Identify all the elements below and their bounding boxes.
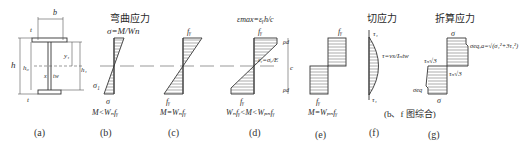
c-bottom-label: fᵧ	[166, 97, 170, 106]
d-condition: Wₙfᵧ<M<Wₚₙfᵧ	[226, 108, 275, 117]
t-bottom-label: t	[27, 96, 30, 104]
d-dim-top: ρd	[282, 39, 290, 45]
bottom-flange	[38, 90, 61, 94]
shear-formula: τ=vs/Iₙtw	[382, 52, 409, 60]
t-top-label: t	[30, 26, 33, 34]
caption-c: (c)	[168, 127, 179, 139]
i-section-figure: b t h h₀ t y₁ h₁ x tw (a)	[11, 8, 87, 139]
shear-bottom-label: τ₁	[372, 96, 377, 104]
stress-distribution-diagram: b t h h₀ t y₁ h₁ x tw (a) 弯曲应力 σ=M/Wn σ₁	[0, 0, 524, 151]
eq-formula: σeq,a=√(σ₁²+3τ₁²)	[470, 42, 518, 50]
bending-bottom-label: σ	[106, 97, 111, 106]
d-mid-label: εᵧ=σᵧ/E	[258, 56, 279, 64]
d-dim-mid: c	[290, 64, 294, 72]
caption-d: (d)	[249, 127, 261, 139]
sigma1-label: σ₁	[93, 81, 100, 90]
combined-note: (b、f 图综合)	[384, 108, 436, 119]
plastic-figure: fᵧ fᵧ M=Wₚₙfᵧ (e)	[307, 27, 346, 141]
h0-label: h₀	[23, 64, 30, 72]
shear-top-label: τ₁	[373, 30, 378, 38]
equivalent-title: 折算应力	[435, 12, 475, 24]
d-top-label: fᵧ	[258, 27, 262, 36]
c-condition: M=Wₙfᵧ	[159, 108, 186, 117]
caption-g: (g)	[428, 129, 440, 141]
elasto-plastic-figure: εmax=εᵧh/c fᵧ εᵧ=σᵧ/E ρd c ρd fᵧ Wₙfᵧ<M<…	[226, 15, 294, 139]
equivalent-stress-figure: 折算应力 σ σeq,a=√(σ₁²+3τ₁²) τₙ√3 τₙ√3 σeq σ…	[384, 12, 518, 141]
bending-condition: M<Wₙfᵧ	[91, 108, 118, 117]
caption-a: (a)	[34, 127, 45, 139]
y1-label: y₁	[63, 52, 70, 60]
e-bottom-label: fᵧ	[316, 97, 320, 106]
d-bottom-label: fᵧ	[240, 97, 244, 106]
caption-e: (e)	[315, 129, 326, 141]
top-flange	[32, 38, 67, 42]
eq-sigma-bottom: σ	[437, 96, 442, 105]
elastic-limit-figure: fᵧ fᵧ M=Wₙfᵧ (c)	[159, 27, 202, 139]
h-label: h	[11, 60, 16, 70]
shear-title: 切应力	[367, 12, 397, 24]
e-condition: M=Wₚₙfᵧ	[307, 108, 337, 117]
shear-stress-figure: 切应力 τ₁ τ=vs/Iₙtw τ₁ (f)	[367, 12, 409, 139]
caption-f: (f)	[369, 127, 379, 139]
e-top-label: fᵧ	[338, 27, 342, 36]
h1-label: h₁	[81, 66, 87, 74]
tau-left-label: τₙ√3	[424, 57, 437, 65]
bending-title: 弯曲应力	[110, 12, 150, 24]
caption-b: (b)	[100, 127, 112, 139]
c-top-label: fᵧ	[187, 27, 191, 36]
tau-right-label: τₙ√3	[449, 70, 462, 78]
d-strain-label: εmax=εᵧh/c	[237, 15, 274, 24]
x-label: x	[43, 73, 47, 79]
eq-bottom-label: σeq	[413, 86, 423, 93]
b-label: b	[53, 8, 57, 17]
eq-top-label: σ	[451, 29, 456, 38]
bending-top-label: σ=M/Wn	[107, 26, 140, 36]
tw-label: tw	[53, 73, 59, 79]
bending-stress-figure: 弯曲应力 σ=M/Wn σ₁ σ M<Wₙfᵧ (b)	[91, 12, 150, 139]
d-dim-bot: ρd	[282, 87, 290, 93]
